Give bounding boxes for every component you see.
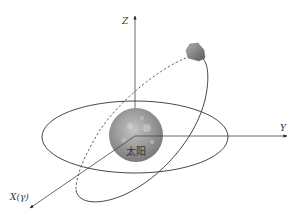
asteroid xyxy=(186,43,205,61)
y-axis-label: Y xyxy=(280,123,287,133)
z-axis-label: Z xyxy=(121,16,129,26)
orbit-diagram: Z 太阳 Y X(γ) xyxy=(0,0,296,218)
sun-label: 太阳 xyxy=(126,145,146,157)
x-axis-label: X(γ) xyxy=(9,192,29,202)
